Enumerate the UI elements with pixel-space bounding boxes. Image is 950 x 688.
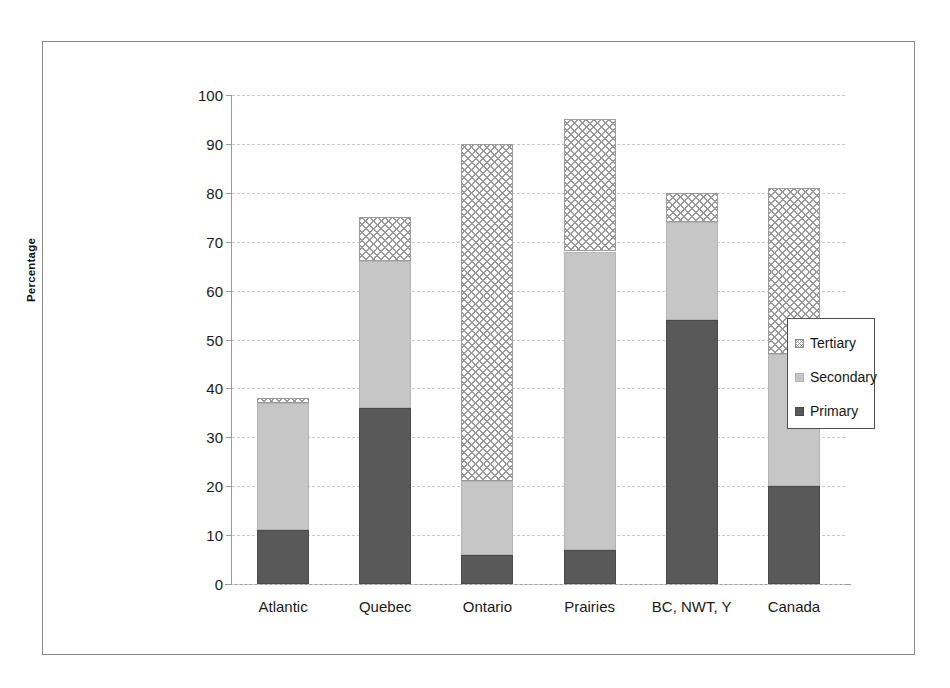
y-axis-title: Percentage (25, 238, 37, 302)
x-tick-label: Canada (743, 598, 845, 615)
y-tick-mark (226, 95, 232, 96)
y-tick-label: 10 (206, 527, 223, 544)
legend-item-secondary[interactable]: Secondary (795, 369, 877, 385)
legend-label: Primary (810, 403, 858, 419)
chart-legend[interactable]: TertiarySecondaryPrimary (787, 318, 875, 429)
bar-segment-secondary[interactable] (564, 252, 616, 550)
bar-segment-tertiary[interactable] (257, 398, 309, 403)
bar-segment-primary[interactable] (257, 530, 309, 584)
bar-segment-primary[interactable] (359, 408, 411, 584)
bar-stack (461, 95, 513, 584)
bar-stack (257, 95, 309, 584)
y-tick-mark (226, 388, 232, 389)
y-tick-label: 40 (206, 380, 223, 397)
y-tick-label: 90 (206, 135, 223, 152)
plot-area (232, 95, 845, 584)
y-tick-label: 0 (215, 576, 223, 593)
y-tick-mark (226, 291, 232, 292)
bar-segment-primary[interactable] (666, 320, 718, 584)
y-tick-label: 20 (206, 478, 223, 495)
bar-segment-secondary[interactable] (257, 403, 309, 530)
gridline (232, 291, 845, 292)
gridline (232, 144, 845, 145)
bar-segment-tertiary[interactable] (359, 217, 411, 261)
cross-hatch-swatch (795, 339, 804, 348)
bar-segment-primary[interactable] (461, 555, 513, 584)
legend-label: Secondary (810, 369, 877, 385)
y-tick-label: 70 (206, 233, 223, 250)
gridline (232, 340, 845, 341)
bar-segment-tertiary[interactable] (666, 193, 718, 222)
y-tick-label: 50 (206, 331, 223, 348)
y-tick-label: 100 (198, 87, 223, 104)
bar-segment-secondary[interactable] (461, 481, 513, 554)
y-tick-mark (226, 193, 232, 194)
light-grey-swatch (795, 373, 804, 382)
y-tick-mark (226, 242, 232, 243)
x-tick-label: Atlantic (232, 598, 334, 615)
gridline (232, 486, 845, 487)
bar-group[interactable] (359, 95, 411, 584)
bar-group[interactable] (257, 95, 309, 584)
bar-group[interactable] (666, 95, 718, 584)
bar-stack (564, 95, 616, 584)
gridline (232, 193, 845, 194)
bar-segment-tertiary[interactable] (564, 119, 616, 251)
gridline (232, 388, 845, 389)
bar-stack (359, 95, 411, 584)
bar-segment-primary[interactable] (768, 486, 820, 584)
x-tick-label: BC, NWT, Y (641, 598, 743, 615)
y-tick-mark (226, 437, 232, 438)
legend-label: Tertiary (810, 335, 856, 351)
y-tick-mark (226, 486, 232, 487)
bar-segment-primary[interactable] (564, 550, 616, 584)
gridline (232, 535, 845, 536)
y-tick-label: 30 (206, 429, 223, 446)
legend-item-tertiary[interactable]: Tertiary (795, 335, 856, 351)
bar-group[interactable] (461, 95, 513, 584)
y-tick-mark (226, 144, 232, 145)
dark-grey-swatch (795, 407, 804, 416)
chart-frame: Percentage 0102030405060708090100 Atlant… (42, 41, 915, 655)
y-tick-mark (226, 340, 232, 341)
bar-segment-tertiary[interactable] (461, 144, 513, 481)
bar-segment-secondary[interactable] (359, 261, 411, 408)
y-tick-mark (226, 584, 232, 585)
y-axis-tick-labels: 0102030405060708090100 (153, 95, 223, 584)
gridline (232, 584, 845, 585)
x-tick-label: Quebec (334, 598, 436, 615)
gridline (232, 437, 845, 438)
y-tick-label: 60 (206, 282, 223, 299)
bar-group[interactable] (564, 95, 616, 584)
y-tick-mark (226, 535, 232, 536)
bar-stack (666, 95, 718, 584)
legend-item-primary[interactable]: Primary (795, 403, 858, 419)
gridline (232, 242, 845, 243)
x-tick-label: Ontario (436, 598, 538, 615)
bar-segment-secondary[interactable] (666, 222, 718, 320)
y-tick-label: 80 (206, 184, 223, 201)
gridline (232, 95, 845, 96)
x-tick-label: Prairies (539, 598, 641, 615)
